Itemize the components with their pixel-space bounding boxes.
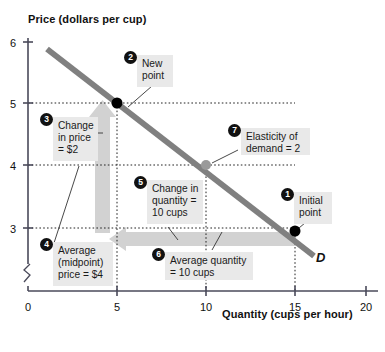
callout-box-change-in-quantity: Change in quantity = 10 cups <box>147 180 203 224</box>
midpoint-marker <box>201 160 211 170</box>
y-tick-4: 4 <box>10 160 16 172</box>
callout-box-initial-point: Initial point <box>294 192 332 224</box>
x-axis-title: Quantity (cups per hour) <box>222 308 353 320</box>
x-tick-15: 15 <box>289 301 301 313</box>
new-point-marker <box>112 98 123 109</box>
x-tick-20: 20 <box>360 301 372 313</box>
elasticity-demand-chart: Price (dollars per cup) Quantity (cups p… <box>0 0 385 352</box>
x-tick-0: 0 <box>25 301 31 313</box>
callout-badge-5: 5 <box>134 176 147 189</box>
callout-box-average-quantity: Average quantity = 10 cups <box>165 252 253 280</box>
quantity-change-arrow <box>109 227 296 251</box>
y-tick-3: 3 <box>10 223 16 235</box>
callout-badge-2: 2 <box>124 51 137 64</box>
callout-box-elasticity: Elasticity of demand = 2 <box>241 128 310 155</box>
callout-badge-6: 6 <box>152 248 165 261</box>
callout-badge-7: 7 <box>228 124 241 137</box>
x-tick-5: 5 <box>114 301 120 313</box>
demand-curve-label: D <box>316 250 326 265</box>
y-axis-title: Price (dollars per cup) <box>28 13 147 25</box>
y-tick-6: 6 <box>10 37 16 49</box>
callout-box-average-price: Average (midpoint) price = $4 <box>53 242 113 286</box>
callout-badge-4: 4 <box>40 238 53 251</box>
callout-box-new-point: New point <box>137 55 173 87</box>
initial-point-marker <box>290 226 301 237</box>
callout-badge-3: 3 <box>40 113 53 126</box>
callout-box-change-in-price: Change in price = $2 <box>53 117 98 161</box>
callout-badge-1: 1 <box>281 188 294 201</box>
chart-canvas: Price (dollars per cup) Quantity (cups p… <box>0 0 385 352</box>
y-tick-5: 5 <box>10 98 16 110</box>
x-tick-10: 10 <box>200 301 212 313</box>
